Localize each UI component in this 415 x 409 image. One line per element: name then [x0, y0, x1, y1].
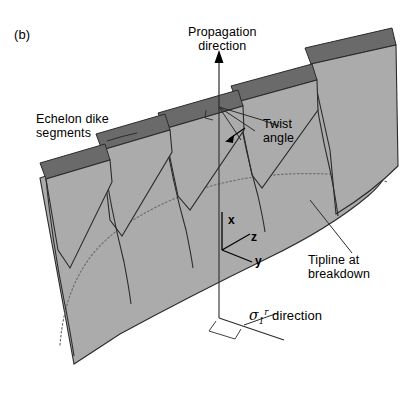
tipline-at-breakdown-label: Tipline at breakdown — [308, 253, 370, 281]
propagation-direction-label: Propagation direction — [188, 25, 257, 53]
axis-x-label: x — [228, 213, 235, 227]
twist-angle-label: Twist angle — [263, 117, 294, 145]
diagram-canvas — [0, 0, 415, 409]
panel-label: (b) — [14, 28, 30, 42]
sigma1r-direction-label: σ1r direction — [249, 305, 322, 328]
sigma-subscript: 1 — [259, 316, 265, 326]
axis-y-label: y — [255, 254, 262, 268]
sigma-direction-text: direction — [268, 308, 322, 323]
echelon-dike-segments-label: Echelon dike segments — [36, 112, 109, 140]
dike-echelon-diagram: (b) Echelon dike segments Propagation di… — [0, 0, 415, 409]
axis-z-label: z — [251, 230, 257, 244]
sigma-symbol: σ — [249, 307, 259, 323]
